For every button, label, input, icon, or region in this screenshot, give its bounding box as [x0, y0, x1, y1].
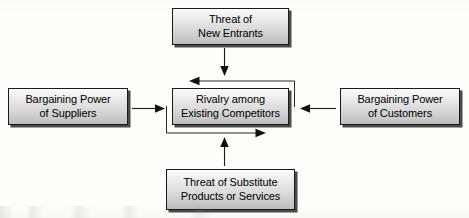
connector-substitutes-to-rivalry	[220, 137, 228, 166]
connector-new-entrants-to-rivalry	[220, 48, 228, 76]
force-box-bargaining-power-of-suppliers[interactable]: Bargaining Power of Suppliers	[8, 88, 128, 125]
force-box-label: Threat of Substitute Products or Service…	[177, 176, 284, 203]
force-box-label: Threat of New Entrants	[194, 13, 267, 40]
connector-suppliers-to-rivalry	[132, 104, 165, 112]
force-box-threat-of-new-entrants[interactable]: Threat of New Entrants	[172, 8, 289, 45]
force-box-rivalry-among-existing-competitors[interactable]: Rivalry among Existing Competitors	[172, 88, 289, 125]
force-box-bargaining-power-of-customers[interactable]: Bargaining Power of Customers	[340, 88, 460, 125]
connector-customers-to-rivalry	[300, 104, 336, 112]
force-box-label: Bargaining Power of Customers	[353, 93, 446, 120]
force-box-threat-of-substitute-products-or-services[interactable]: Threat of Substitute Products or Service…	[166, 169, 295, 210]
diagram-canvas: Threat of New Entrants Bargaining Power …	[0, 0, 469, 218]
force-box-label: Bargaining Power of Suppliers	[21, 93, 114, 120]
force-box-label: Rivalry among Existing Competitors	[177, 93, 284, 120]
